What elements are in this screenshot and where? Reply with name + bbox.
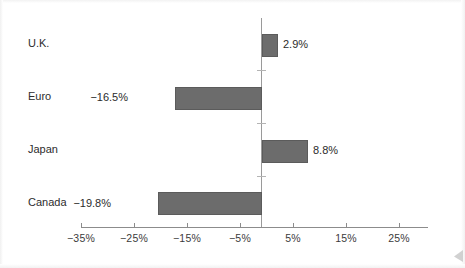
chart-screenshot: −35%−25%−15%−5%5%15%25% U.K.EuroJapanCan…	[0, 0, 465, 268]
bar-value-label: 8.8%	[313, 144, 338, 156]
x-axis-tick-label: 5%	[263, 232, 323, 244]
x-axis-tick	[81, 223, 82, 228]
x-axis-tick	[134, 223, 135, 228]
zero-axis-stub	[257, 176, 266, 177]
x-axis-tick	[399, 223, 400, 228]
x-axis-tick-label: −25%	[104, 232, 164, 244]
category-label: U.K.	[28, 37, 122, 49]
bar[interactable]	[262, 140, 308, 163]
x-axis-tick	[346, 223, 347, 228]
bar[interactable]	[262, 34, 278, 57]
x-axis-tick	[240, 223, 241, 228]
zero-axis-stub	[257, 70, 266, 71]
category-label: Japan	[28, 143, 122, 155]
zero-axis-stub	[257, 123, 266, 124]
bar[interactable]	[158, 192, 262, 215]
x-axis-tick-label: −15%	[157, 232, 217, 244]
x-axis-tick-label: −5%	[210, 232, 270, 244]
x-axis-tick	[293, 223, 294, 228]
bar[interactable]	[175, 87, 262, 110]
bar-value-label: −19.8%	[51, 197, 111, 209]
bar-value-label: −16.5%	[68, 91, 128, 103]
x-axis-tick-label: 15%	[316, 232, 376, 244]
x-axis-tick-label: −35%	[51, 232, 111, 244]
x-axis-tick-label: 25%	[369, 232, 429, 244]
bar-value-label: 2.9%	[283, 38, 308, 50]
x-axis-tick	[187, 223, 188, 228]
bar-chart-plot-area: −35%−25%−15%−5%5%15%25% U.K.EuroJapanCan…	[0, 0, 465, 268]
